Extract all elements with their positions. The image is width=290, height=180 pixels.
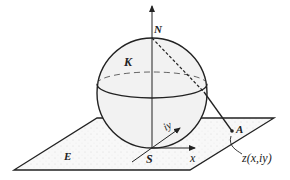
point-coordinate-label: z(x,iy): [241, 151, 272, 165]
riemann-sphere-diagram: N K E S A x iy z(x,iy): [0, 0, 290, 180]
point-a-dot: [230, 129, 234, 133]
sphere-label: K: [123, 55, 133, 69]
north-pole-label: N: [153, 23, 163, 35]
x-axis-label: x: [189, 151, 196, 165]
point-a-label: A: [235, 123, 243, 135]
plane-label: E: [63, 150, 71, 162]
south-pole-label: S: [146, 152, 153, 166]
